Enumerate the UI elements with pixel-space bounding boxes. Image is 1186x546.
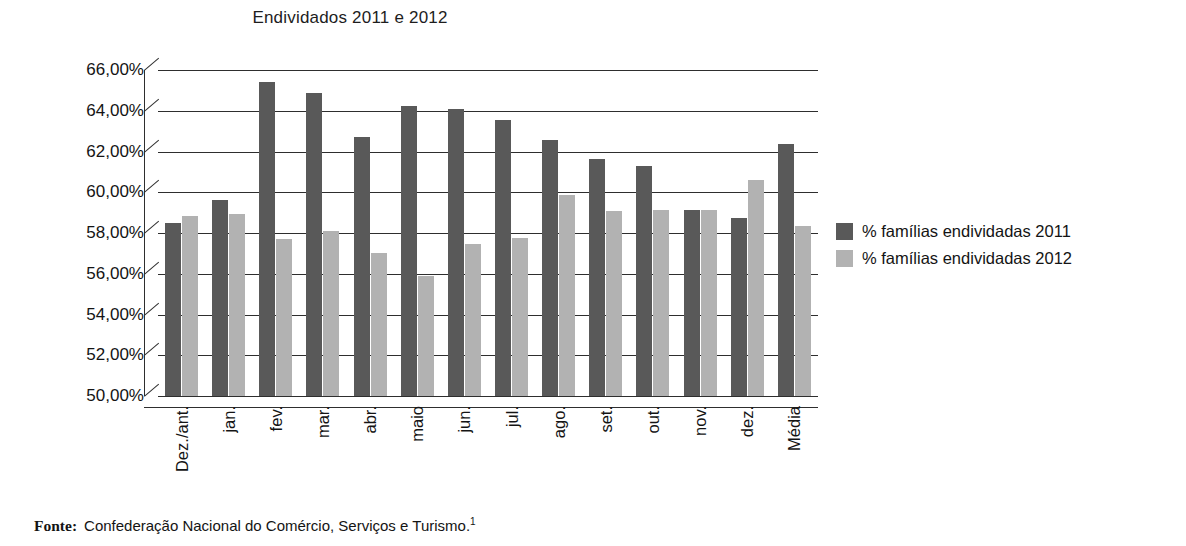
bar bbox=[495, 120, 511, 396]
x-axis-label-cell: abr. bbox=[347, 404, 394, 500]
bar bbox=[748, 180, 764, 396]
plot-area: 66,00%64,00%62,00%60,00%58,00%56,00%54,0… bbox=[158, 70, 818, 396]
x-axis-label-cell: nov. bbox=[677, 404, 724, 500]
x-axis-tick-label: jan. bbox=[219, 406, 238, 433]
bar-group bbox=[394, 70, 441, 396]
bar bbox=[684, 210, 700, 396]
y-axis-tick-label: 62,00% bbox=[4, 141, 144, 161]
bar-group bbox=[488, 70, 535, 396]
x-axis-label-cell: jun. bbox=[441, 404, 488, 500]
legend-swatch-icon bbox=[836, 223, 853, 240]
x-axis-tick-label: nov. bbox=[691, 406, 710, 436]
x-axis-tick-label: ago. bbox=[549, 406, 568, 438]
legend-item: % famílias endividadas 2012 bbox=[836, 249, 1166, 268]
x-axis-label-cell: jan. bbox=[205, 404, 252, 500]
source-note: Fonte:Confederação Nacional do Comércio,… bbox=[34, 516, 476, 535]
bar-group bbox=[771, 70, 818, 396]
bar-group bbox=[535, 70, 582, 396]
bar bbox=[354, 137, 370, 396]
x-axis-tick-label: Dez./ant. bbox=[172, 406, 191, 472]
footnote-marker: 1 bbox=[470, 516, 476, 527]
x-axis-label-cell: dez. bbox=[724, 404, 771, 500]
x-axis-tick-label: jul. bbox=[502, 406, 521, 427]
x-axis-label-cell: mar. bbox=[299, 404, 346, 500]
bar bbox=[165, 223, 181, 396]
legend-label: % famílias endividadas 2011 bbox=[862, 222, 1071, 241]
axis-tick-connector bbox=[144, 355, 158, 367]
bar bbox=[259, 82, 275, 396]
bar-series-container bbox=[158, 70, 818, 396]
x-axis-tick-label: fev. bbox=[266, 406, 285, 431]
source-label: Fonte: bbox=[34, 517, 77, 534]
y-axis-tick-label: 56,00% bbox=[4, 263, 144, 283]
axis-tick-connector bbox=[144, 396, 158, 408]
axis-tick-connector bbox=[144, 70, 158, 82]
chart-figure: Endividados 2011 e 2012 66,00%64,00%62,0… bbox=[0, 0, 1186, 546]
x-axis-tick-label: dez. bbox=[738, 406, 757, 437]
bar bbox=[636, 166, 652, 396]
bar-group bbox=[158, 70, 205, 396]
axis-tick-connector bbox=[144, 315, 158, 327]
source-text: Confederação Nacional do Comércio, Servi… bbox=[84, 517, 470, 534]
x-axis-tick-label: maio bbox=[408, 406, 427, 442]
x-axis-tick-label: Média bbox=[785, 406, 804, 451]
gridline bbox=[158, 396, 818, 397]
bar bbox=[653, 210, 669, 396]
bar bbox=[795, 226, 811, 396]
bar-group bbox=[299, 70, 346, 396]
x-axis-label-cell: Dez./ant. bbox=[158, 404, 205, 500]
bar bbox=[559, 195, 575, 396]
x-axis-label-cell: fev. bbox=[252, 404, 299, 500]
y-axis-tick-label: 58,00% bbox=[4, 223, 144, 243]
x-axis-label-cell: ago. bbox=[535, 404, 582, 500]
bar-group bbox=[629, 70, 676, 396]
y-axis-tick-label: 54,00% bbox=[4, 304, 144, 324]
bar bbox=[606, 211, 622, 396]
x-axis-tick-label: abr. bbox=[361, 406, 380, 434]
bar-group bbox=[347, 70, 394, 396]
x-axis-tick-label: mar. bbox=[313, 406, 332, 438]
axis-tick-connector bbox=[144, 192, 158, 204]
bar bbox=[229, 214, 245, 396]
x-axis-tick-label: set. bbox=[596, 406, 615, 433]
bar-group bbox=[582, 70, 629, 396]
bar-group bbox=[677, 70, 724, 396]
y-axis-tick-label: 50,00% bbox=[4, 386, 144, 406]
legend-swatch-icon bbox=[836, 250, 853, 267]
bar bbox=[542, 140, 558, 396]
x-axis-label-cell: Média bbox=[771, 404, 818, 500]
legend-item: % famílias endividadas 2011 bbox=[836, 222, 1166, 241]
y-axis-tick-label: 60,00% bbox=[4, 182, 144, 202]
bar bbox=[701, 210, 717, 396]
bar bbox=[418, 276, 434, 396]
bar bbox=[589, 159, 605, 396]
x-axis-label-cell: maio bbox=[394, 404, 441, 500]
bar bbox=[371, 253, 387, 396]
axis-tick-connector bbox=[144, 274, 158, 286]
legend-label: % famílias endividadas 2012 bbox=[862, 249, 1072, 268]
bar-group bbox=[724, 70, 771, 396]
y-axis-tick-label: 66,00% bbox=[4, 60, 144, 80]
chart-legend: % famílias endividadas 2011% famílias en… bbox=[836, 222, 1166, 276]
bar bbox=[401, 106, 417, 396]
axis-tick-connector bbox=[144, 152, 158, 164]
bar-group bbox=[441, 70, 488, 396]
x-axis-label-cell: out. bbox=[629, 404, 676, 500]
x-axis-label-cell: jul. bbox=[488, 404, 535, 500]
bar bbox=[182, 216, 198, 396]
bar bbox=[323, 231, 339, 396]
x-axis-tick-label: out. bbox=[643, 406, 662, 434]
bar bbox=[778, 144, 794, 396]
y-axis-tick-label: 64,00% bbox=[4, 100, 144, 120]
bar-group bbox=[205, 70, 252, 396]
bar-group bbox=[252, 70, 299, 396]
x-axis-tick-label: jun. bbox=[455, 406, 474, 433]
x-axis-labels: Dez./ant.jan.fev.mar.abr.maiojun.jul.ago… bbox=[158, 404, 818, 500]
bar bbox=[465, 244, 481, 396]
axis-tick-connector bbox=[144, 111, 158, 123]
chart-title: Endividados 2011 e 2012 bbox=[0, 8, 700, 28]
x-axis-label-cell: set. bbox=[582, 404, 629, 500]
bar bbox=[276, 239, 292, 396]
y-axis-tick-label: 52,00% bbox=[4, 345, 144, 365]
axis-tick-connector bbox=[144, 233, 158, 245]
